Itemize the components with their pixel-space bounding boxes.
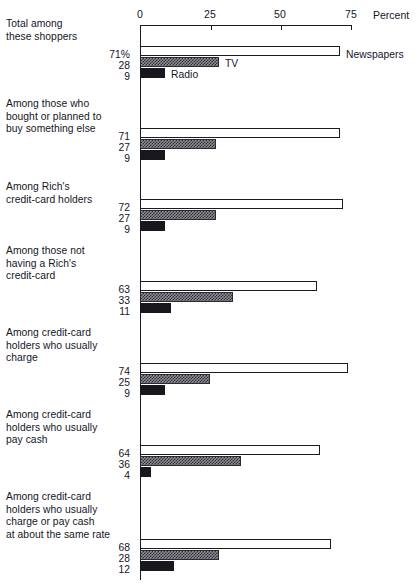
bar-4-tv [140, 292, 233, 302]
bar-2-radio [140, 150, 165, 160]
value-label-5-tv: 25 [4, 378, 130, 388]
value-label-7-radio: 12 [4, 565, 130, 575]
value-label-3-tv: 27 [4, 214, 130, 224]
bar-4-newspapers [140, 281, 317, 291]
axis-line-horizontal [140, 25, 351, 26]
bar-5-radio [140, 385, 165, 395]
value-label-3-newspapers: 72 [4, 203, 130, 213]
group-heading-4: Among those not having a Rich's credit-c… [6, 245, 134, 283]
legend-label-newspapers: Newspapers [346, 50, 404, 60]
bar-2-tv [140, 139, 216, 149]
bar-2-newspapers [140, 128, 340, 138]
value-label-4-radio: 11 [4, 307, 130, 317]
axis-tick-25 [211, 25, 212, 30]
value-label-2-radio: 9 [4, 154, 130, 164]
bar-4-radio [140, 303, 171, 313]
group-heading-2: Among those who bought or planned to buy… [6, 98, 134, 136]
bar-chart: 0 25 50 75 Percent Total among these sho… [0, 0, 416, 588]
group-heading-1: Total among these shoppers [6, 18, 134, 43]
bar-5-newspapers [140, 363, 348, 373]
bar-5-tv [140, 374, 210, 384]
value-label-2-newspapers: 71 [4, 132, 130, 142]
group-heading-6: Among credit-card holders who usually pa… [6, 409, 134, 447]
value-label-6-radio: 4 [4, 471, 130, 481]
bar-1-tv [140, 57, 219, 67]
bar-1-radio [140, 68, 165, 78]
bar-3-newspapers [140, 199, 343, 209]
bar-3-tv [140, 210, 216, 220]
bar-7-radio [140, 561, 174, 571]
bar-6-newspapers [140, 445, 320, 455]
value-label-3-radio: 9 [4, 225, 130, 235]
bar-6-radio [140, 467, 151, 477]
bar-1-newspapers [140, 46, 340, 56]
value-label-1-newspapers: 71% [4, 50, 130, 60]
axis-unit-label: Percent [373, 10, 409, 21]
axis-tick-75 [351, 25, 352, 30]
axis-tick-label-25: 25 [204, 9, 216, 20]
group-heading-7: Among credit-card holders who usually ch… [6, 491, 134, 541]
value-label-1-tv: 28 [4, 61, 130, 71]
value-label-7-newspapers: 68 [4, 543, 130, 553]
value-label-5-newspapers: 74 [4, 367, 130, 377]
bar-6-tv [140, 456, 241, 466]
value-label-2-tv: 27 [4, 143, 130, 153]
bar-7-tv [140, 550, 219, 560]
axis-tick-label-50: 50 [274, 9, 286, 20]
value-label-1-radio: 9 [4, 72, 130, 82]
axis-tick-50 [281, 25, 282, 30]
legend-label-radio: Radio [171, 70, 198, 80]
bar-3-radio [140, 221, 165, 231]
axis-tick-label-75: 75 [345, 9, 357, 20]
value-label-6-tv: 36 [4, 460, 130, 470]
value-label-4-tv: 33 [4, 296, 130, 306]
axis-tick-label-0: 0 [137, 9, 143, 20]
value-label-5-radio: 9 [4, 389, 130, 399]
value-label-6-newspapers: 64 [4, 449, 130, 459]
value-label-4-newspapers: 63 [4, 285, 130, 295]
value-label-7-tv: 28 [4, 554, 130, 564]
group-heading-5: Among credit-card holders who usually ch… [6, 327, 134, 365]
bar-7-newspapers [140, 539, 331, 549]
legend-label-tv: TV [225, 59, 238, 69]
